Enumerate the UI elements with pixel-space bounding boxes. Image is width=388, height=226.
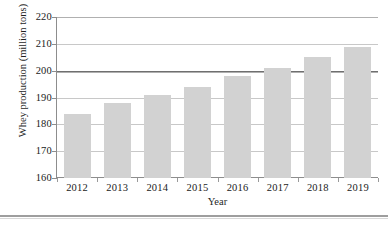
x-tick-label-2018: 2018 bbox=[295, 182, 341, 193]
y-tick-mark-190 bbox=[52, 98, 57, 99]
gridline-220 bbox=[57, 17, 378, 18]
bar-2017 bbox=[264, 68, 291, 178]
y-tick-label-160: 160 bbox=[12, 173, 52, 184]
y-tick-mark-220 bbox=[52, 17, 57, 18]
x-tick-label-2017: 2017 bbox=[255, 182, 301, 193]
y-tick-mark-210 bbox=[52, 44, 57, 45]
bar-2014 bbox=[144, 95, 171, 178]
x-tick-label-2013: 2013 bbox=[94, 182, 140, 193]
y-tick-mark-200 bbox=[52, 71, 57, 72]
gridline-210 bbox=[57, 44, 378, 45]
y-tick-mark-180 bbox=[52, 124, 57, 125]
bar-2013 bbox=[104, 103, 131, 178]
x-tick-label-2016: 2016 bbox=[215, 182, 261, 193]
bar-2012 bbox=[64, 114, 91, 178]
x-tick-label-2015: 2015 bbox=[174, 182, 220, 193]
x-tick-label-2012: 2012 bbox=[54, 182, 100, 193]
footer-divider bbox=[0, 215, 388, 217]
footer-divider-secondary bbox=[0, 218, 388, 219]
bar-2016 bbox=[224, 76, 251, 178]
y-tick-label-180: 180 bbox=[12, 119, 52, 130]
y-tick-label-170: 170 bbox=[12, 146, 52, 157]
y-tick-mark-170 bbox=[52, 151, 57, 152]
whey-production-bar-chart: Whey production (million tons) Year 1601… bbox=[0, 0, 388, 226]
bar-2019 bbox=[344, 47, 371, 178]
y-tick-label-190: 190 bbox=[12, 93, 52, 104]
x-axis-title: Year bbox=[57, 196, 378, 207]
bar-2015 bbox=[184, 87, 211, 178]
y-tick-label-210: 210 bbox=[12, 39, 52, 50]
bar-2018 bbox=[304, 57, 331, 178]
y-tick-label-200: 200 bbox=[12, 66, 52, 77]
y-tick-label-220: 220 bbox=[12, 12, 52, 23]
x-tick-mark-end bbox=[378, 178, 379, 182]
y-axis-title: Whey production (million tons) bbox=[17, 0, 28, 154]
x-tick-label-2014: 2014 bbox=[134, 182, 180, 193]
plot-area bbox=[57, 17, 378, 178]
x-tick-label-2019: 2019 bbox=[335, 182, 381, 193]
